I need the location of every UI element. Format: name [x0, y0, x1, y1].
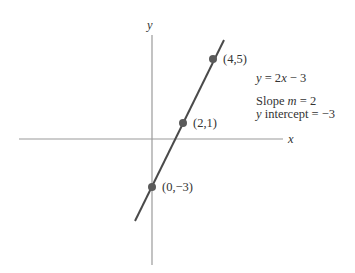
x-axis-label: x	[287, 132, 294, 146]
point-label-0-neg3: (0,−3)	[162, 180, 193, 194]
slope-value: = 2	[297, 94, 317, 108]
slope-var: m	[288, 94, 297, 108]
slope-text: Slope m = 2	[256, 94, 316, 108]
line-graph: x y (4,5) (2,1) (0,−3) y = 2x − 3 Slope …	[0, 0, 355, 273]
equation-rest: = 2	[262, 71, 282, 85]
point-2-1	[179, 119, 187, 127]
y-axis-label: y	[145, 18, 153, 32]
intercept-rest: intercept = −3	[262, 107, 335, 121]
point-0-neg3	[148, 183, 156, 191]
equation-tail: − 3	[287, 71, 307, 85]
point-label-4-5: (4,5)	[223, 52, 247, 66]
slope-prefix: Slope	[256, 94, 288, 108]
point-4-5	[209, 55, 217, 63]
equation-text: y = 2x − 3	[254, 71, 306, 85]
point-label-2-1: (2,1)	[193, 116, 217, 130]
intercept-text: y intercept = −3	[254, 107, 335, 121]
